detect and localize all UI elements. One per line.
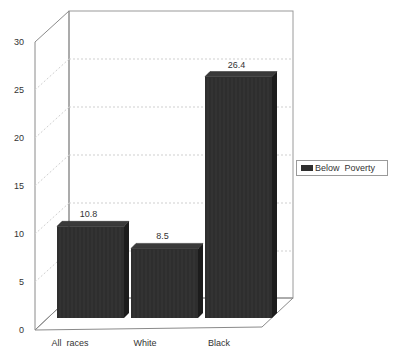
- bar-2: [205, 77, 272, 318]
- y-tick-label: 30: [14, 37, 24, 47]
- y-tick-label: 25: [14, 85, 24, 95]
- y-tick-label: 15: [14, 181, 24, 191]
- category-label: White: [133, 338, 156, 348]
- y-tick-label: 5: [19, 277, 24, 287]
- y-axis-ticks: 051015202530: [14, 37, 24, 335]
- bar-value-label: 8.5: [156, 231, 169, 241]
- legend: Below Poverty: [296, 160, 388, 176]
- bar-top-face: [57, 221, 129, 226]
- category-label: All races: [51, 338, 89, 348]
- bar-top-face: [205, 72, 277, 77]
- y-tick-label: 10: [14, 229, 24, 239]
- bars: 10.88.526.4: [57, 60, 277, 318]
- y-tick-label: 20: [14, 133, 24, 143]
- bar-value-label: 10.8: [80, 209, 98, 219]
- bar-1: [131, 248, 198, 318]
- category-labels: All racesWhiteBlack: [51, 338, 230, 348]
- bar-chart-3d: 051015202530 10.88.526.4 All racesWhiteB…: [0, 0, 403, 361]
- legend-label: Below Poverty: [315, 163, 375, 173]
- category-label: Black: [208, 338, 231, 348]
- y-tick-label: 0: [19, 325, 24, 335]
- legend-swatch: [301, 165, 313, 171]
- bar-side-face: [124, 221, 129, 318]
- bar-value-label: 26.4: [228, 60, 246, 70]
- bar-side-face: [272, 72, 277, 318]
- bar-top-face: [131, 243, 203, 248]
- bar-side-face: [198, 243, 203, 318]
- bar-0: [57, 226, 124, 318]
